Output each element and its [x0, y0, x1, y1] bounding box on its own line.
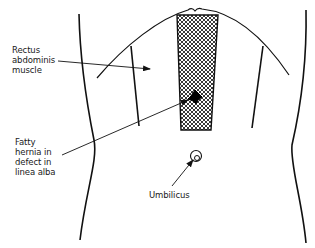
diagram-drawing [0, 0, 315, 248]
label-umbilicus: Umbilicus [149, 190, 190, 200]
label-line: defect in [15, 157, 55, 167]
label-line: abdominis [12, 55, 55, 65]
umbilicus-icon [191, 151, 202, 162]
abdominal-wall-diagram: Rectus abdominis muscle Fatty hernia in … [0, 0, 315, 248]
label-line: linea alba [15, 167, 55, 177]
left-rectus-border [131, 46, 139, 126]
label-line: Rectus [12, 45, 55, 55]
label-line: hernia in [15, 147, 55, 157]
hernia-leader-arrow [62, 100, 188, 155]
label-line: Fatty [15, 137, 55, 147]
left-trunk-outline [79, 14, 95, 240]
label-line: muscle [12, 65, 55, 75]
mesh-strip [177, 15, 218, 130]
right-trunk-outline [292, 10, 306, 243]
label-line: Umbilicus [149, 190, 190, 200]
label-fatty-hernia: Fatty hernia in defect in linea alba [15, 137, 55, 177]
right-rectus-border [252, 46, 263, 128]
label-rectus-abdominis: Rectus abdominis muscle [12, 45, 55, 75]
rectus-leader-arrow [58, 61, 150, 69]
umbilicus-leader-arrow [172, 160, 193, 186]
